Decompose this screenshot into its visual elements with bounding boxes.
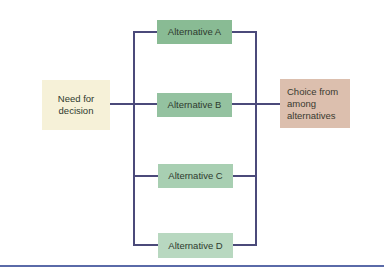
choice-line2: among [287,98,338,110]
alternative-b-label: Alternative B [168,99,222,111]
choice-line1: Choice from [287,86,338,98]
connector-source [110,103,134,105]
alternative-c-box: Alternative C [158,164,233,188]
connector-c-left [133,175,158,177]
connector-b-right [232,103,257,105]
alternative-a-label: Alternative A [168,26,221,38]
choice-box: Choice from among alternatives [280,79,350,128]
connector-d-left [133,244,158,246]
alternative-b-box: Alternative B [157,93,232,117]
alternative-d-label: Alternative D [168,240,222,252]
need-for-decision-line1: Need for [58,93,94,105]
connector-right-vertical [255,31,257,246]
connector-d-right [232,244,257,246]
connector-a-left [133,31,158,33]
connector-c-right [232,175,257,177]
need-for-decision-box: Need for decision [42,80,110,130]
connector-a-right [232,31,257,33]
need-for-decision-line2: decision [58,105,94,117]
alternative-d-box: Alternative D [158,233,233,258]
bottom-divider [0,265,384,267]
connector-b-left [133,103,158,105]
choice-line3: alternatives [287,110,338,122]
connector-left-vertical [133,31,135,246]
connector-target [255,103,281,105]
alternative-a-box: Alternative A [157,20,232,44]
alternative-c-label: Alternative C [168,170,222,182]
